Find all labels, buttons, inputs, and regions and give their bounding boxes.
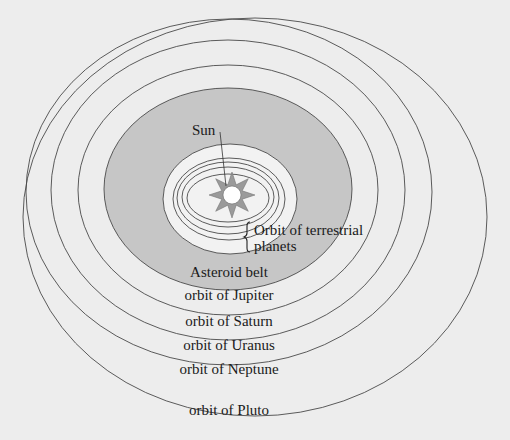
solar-system-diagram: Sun Orbit of terrestrial planets Asteroi… <box>0 0 510 440</box>
saturn-orbit-label: orbit of Saturn <box>185 313 273 329</box>
neptune-orbit-label: orbit of Neptune <box>179 361 278 377</box>
terrestrial-orbits-label-line2: planets <box>254 238 297 254</box>
sun-label: Sun <box>192 122 216 138</box>
asteroid-belt-label: Asteroid belt <box>190 264 269 280</box>
terrestrial-orbits-label-line1: Orbit of terrestrial <box>254 222 363 238</box>
jupiter-orbit-label: orbit of Jupiter <box>184 287 273 303</box>
pluto-orbit-label: orbit of Pluto <box>189 402 269 418</box>
uranus-orbit-label: orbit of Uranus <box>183 337 275 353</box>
sun-icon <box>209 172 255 218</box>
